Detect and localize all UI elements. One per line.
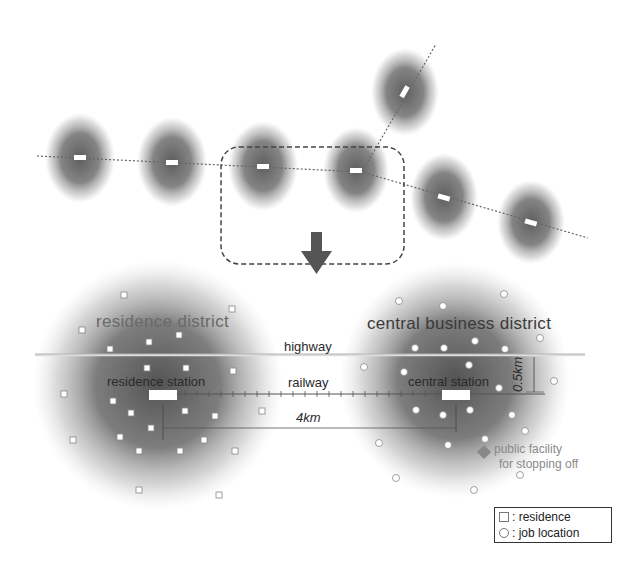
public-facility-label-line2: for stopping off	[494, 457, 578, 472]
station-marker	[74, 155, 86, 160]
top-network	[37, 44, 588, 264]
diagram-canvas	[0, 0, 638, 572]
central-station-label: central station	[408, 374, 489, 389]
residence-district-label: residence district	[96, 312, 229, 332]
station-marker	[257, 164, 269, 169]
cbd-label: central business district	[367, 314, 551, 334]
legend-item-residence: : residence	[499, 509, 607, 525]
circle-icon	[499, 528, 509, 538]
station-marker	[166, 160, 178, 165]
distance-4km-label: 4km	[296, 410, 321, 425]
residence-station-marker	[149, 390, 177, 400]
railway-label: railway	[288, 375, 328, 390]
square-icon	[499, 512, 509, 522]
legend-label: : job location	[512, 526, 579, 540]
highway-label: highway	[284, 339, 332, 354]
residence-station-label: residence station	[107, 374, 205, 389]
station-marker	[350, 168, 362, 173]
central-station-marker	[442, 390, 470, 400]
down-arrow-icon	[301, 232, 332, 274]
legend: : residence : job location	[494, 507, 612, 543]
public-facility-label: public facility for stopping off	[494, 442, 578, 472]
distance-0.5km-label: 0.5km	[510, 357, 525, 392]
legend-label: : residence	[512, 510, 571, 524]
public-facility-label-line1: public facility	[494, 442, 578, 457]
legend-item-job-location: : job location	[499, 525, 607, 541]
